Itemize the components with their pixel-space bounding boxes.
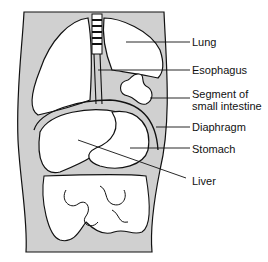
label-liver: Liver [192, 175, 216, 187]
anatomy-diagram: Lung Esophagus Segment of small intestin… [0, 0, 268, 262]
label-small-intestine-line1: Segment of [192, 88, 248, 100]
label-small-intestine-line2: small intestine [192, 100, 262, 112]
label-diaphragm: Diaphragm [192, 121, 246, 133]
label-esophagus: Esophagus [192, 64, 247, 76]
label-lung: Lung [192, 36, 216, 48]
label-stomach: Stomach [192, 143, 235, 155]
